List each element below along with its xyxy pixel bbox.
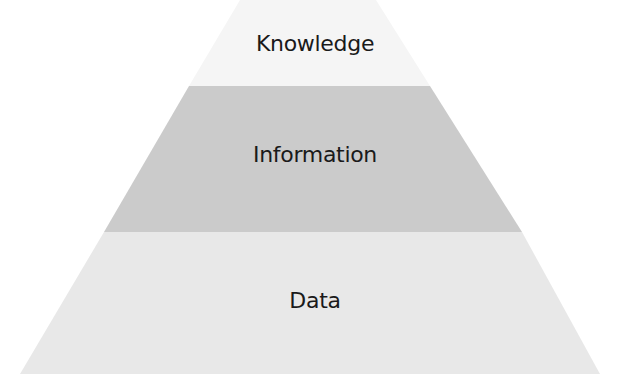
tier-label-knowledge: Knowledge: [0, 33, 630, 55]
pyramid-shapes: [0, 0, 630, 390]
tier-label-data: Data: [0, 290, 630, 312]
tier-label-information: Information: [0, 144, 630, 166]
pyramid-diagram: Knowledge Information Data: [0, 0, 630, 390]
